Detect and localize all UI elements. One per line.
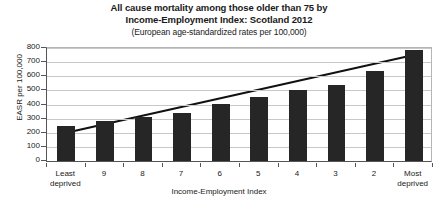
bar (405, 50, 423, 161)
chart-title-block: All cause mortality among those older th… (0, 2, 438, 38)
y-tick-label: 100 (0, 142, 40, 150)
chart-title-line-2: Income-Employment Index: Scotland 2012 (0, 14, 438, 26)
x-tick-mark (316, 163, 317, 167)
bar (289, 90, 307, 161)
x-tick-mark (278, 163, 279, 167)
y-tick-label: 0 (0, 156, 40, 164)
bar (173, 113, 191, 161)
chart-title-line-1: All cause mortality among those older th… (0, 2, 438, 14)
y-tick-label: 500 (0, 85, 40, 93)
bar (328, 85, 346, 161)
bar (212, 104, 230, 161)
x-axis-title: Income-Employment Index (0, 187, 438, 196)
bar (135, 117, 153, 161)
x-tick-mark (162, 163, 163, 167)
plot-area (46, 47, 432, 162)
x-tick-mark (200, 163, 201, 167)
x-tick-mark (432, 163, 433, 167)
x-tick-mark (46, 163, 47, 167)
x-tick-mark (239, 163, 240, 167)
y-tick-label: 600 (0, 71, 40, 79)
y-tick-label: 700 (0, 57, 40, 65)
gridline (47, 48, 431, 49)
bar (366, 71, 384, 161)
y-tick-label: 400 (0, 100, 40, 108)
bar (250, 97, 268, 161)
x-tick-mark (123, 163, 124, 167)
x-tick-mark (85, 163, 86, 167)
chart-subtitle: (European age-standardized rates per 100… (0, 26, 438, 38)
chart-container: All cause mortality among those older th… (0, 0, 438, 203)
bar (57, 126, 75, 161)
x-tick-label: Most deprived (384, 169, 438, 188)
x-tick-mark (393, 163, 394, 167)
x-tick-mark (355, 163, 356, 167)
gridline (47, 62, 431, 63)
y-tick-label: 300 (0, 114, 40, 122)
y-tick-label: 200 (0, 128, 40, 136)
y-tick-label: 800 (0, 43, 40, 51)
bar (96, 121, 114, 161)
